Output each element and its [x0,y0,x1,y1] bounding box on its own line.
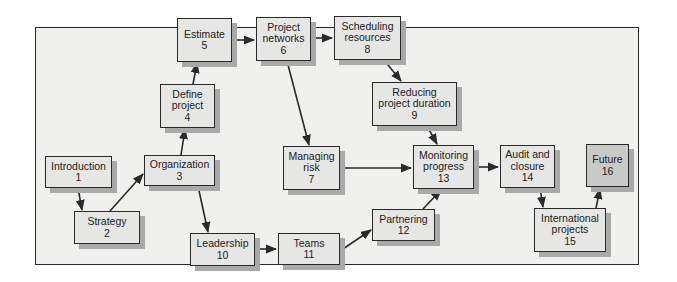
node-number: 10 [217,250,229,262]
node-number: 8 [365,44,371,56]
edge-11-12 [340,230,371,251]
node-number: 16 [602,166,614,178]
edge-3-10 [198,186,208,232]
node-project-networks: Project networks 6 [256,17,311,61]
edge-15-16 [596,189,600,208]
node-label: Strategy [87,216,126,228]
node-introduction: Introduction 1 [45,156,112,188]
edge-12-13 [423,190,441,209]
edge-1-2 [78,188,82,210]
node-strategy: Strategy 2 [74,211,140,244]
node-teams: Teams 11 [278,233,340,265]
edge-8-9 [384,60,401,81]
node-number: 3 [177,171,183,183]
node-number: 14 [522,172,534,184]
edge-6-7 [287,61,309,145]
node-define-project: Define project 4 [160,84,215,128]
node-number: 7 [309,174,315,186]
node-reducing-project-duration: Reducing project duration 9 [372,82,457,126]
node-monitoring-progress: Monitoring progress 13 [413,145,474,189]
node-number: 5 [202,40,208,52]
node-organization: Organization 3 [144,155,215,186]
edge-3-4 [181,129,185,155]
node-managing-risk: Managing risk 7 [283,146,340,190]
node-number: 15 [564,236,576,248]
node-label: Organization [150,159,210,171]
node-number: 1 [76,172,82,184]
node-scheduling-resources: Scheduling resources 8 [334,16,401,60]
edge-9-13 [427,126,437,144]
node-number: 6 [281,45,287,57]
node-estimate: Estimate 5 [177,18,232,62]
node-number: 12 [398,225,410,237]
node-label: Leadership [197,238,249,250]
node-label: Future [592,154,622,166]
node-number: 2 [104,228,110,240]
node-number: 13 [438,173,450,185]
edge-14-15 [540,188,543,207]
node-international-projects: International projects 15 [534,208,606,252]
node-future: Future 16 [586,144,629,187]
node-leadership: Leadership 10 [190,233,255,266]
node-audit-and-closure: Audit and closure 14 [500,145,555,188]
edge-4-5 [193,63,197,84]
node-partnering: Partnering 12 [372,209,435,241]
edge-2-3 [110,174,143,211]
node-number: 11 [304,249,315,261]
node-number: 4 [185,112,191,124]
node-number: 9 [412,110,418,122]
